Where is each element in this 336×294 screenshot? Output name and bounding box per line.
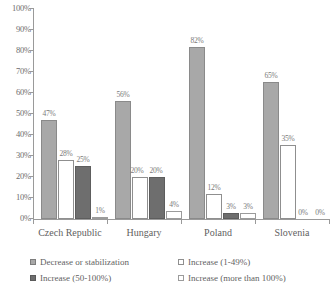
x-axis-category-czech-republic: Czech Republic [33,226,107,239]
y-axis-tick-label: 20% [1,172,31,181]
legend-item-decrease-or-stabilization[interactable]: Decrease or stabilization [30,256,129,268]
bar-value-label: 0% [310,209,330,217]
bar-value-label: 35% [275,135,301,143]
y-axis-tick [29,197,33,198]
y-axis-tick [29,71,33,72]
x-axis-category-labels: Czech Republic Hungary Poland Slovenia [33,226,330,242]
bar-value-label: 12% [201,184,227,192]
x-axis-category-hungary: Hungary [107,226,181,239]
bar-czech-increase-more-than-100[interactable] [92,217,108,219]
bar-value-label: 3% [235,203,261,211]
plot-area: 47% 28% 25% 1% 56% 20% 20% 4% 82% 12% [33,8,330,220]
bar-czech-decrease-or-stabilization[interactable] [41,120,57,219]
legend-swatch-icon [30,275,36,281]
y-axis-tick [29,50,33,51]
bar-value-label: 25% [70,156,96,164]
legend-item-increase-more-than-100[interactable]: Increase (more than 100%) [178,272,286,284]
y-axis-tick [29,29,33,30]
x-axis-tick [33,220,34,224]
y-axis-tick-label: 10% [1,193,31,202]
x-axis-category-slovenia: Slovenia [255,226,329,239]
y-axis-tick [29,92,33,93]
bar-group-slovenia: 65% 35% 0% 0% [263,8,329,219]
bar-slovenia-increase-1-49[interactable] [280,145,296,219]
bar-slovenia-decrease-or-stabilization[interactable] [263,82,279,219]
legend-swatch-icon [178,259,184,265]
y-axis-tick-label: 70% [1,67,31,76]
legend-label: Increase (1-49%) [188,256,250,268]
y-axis-tick-label: 100% [1,4,31,13]
legend-swatch-icon [178,275,184,281]
bar-hungary-increase-50-100[interactable] [149,177,165,219]
x-axis-tick [255,220,256,224]
x-axis-category-poland: Poland [181,226,255,239]
chart-legend: Decrease or stabilization Increase (50-1… [30,256,330,290]
y-axis-tick-label: 40% [1,130,31,139]
bar-value-label: 4% [161,201,187,209]
bar-value-label: 65% [258,72,284,80]
legend-label: Increase (50-100%) [40,272,111,284]
x-axis-tick [107,220,108,224]
y-axis-tick [29,218,33,219]
bar-value-label: 1% [87,207,113,215]
y-axis-tick-label: 50% [1,109,31,118]
y-axis-tick [29,155,33,156]
y-axis-tick-label: 0% [1,214,31,223]
bar-poland-increase-more-than-100[interactable] [240,213,256,219]
y-axis-tick-label: 60% [1,88,31,97]
y-axis-tick [29,113,33,114]
y-axis-tick-label: 80% [1,46,31,55]
legend-item-increase-50-100[interactable]: Increase (50-100%) [30,272,111,284]
bar-hungary-decrease-or-stabilization[interactable] [115,101,131,219]
bar-value-label: 47% [36,110,62,118]
legend-item-increase-1-49[interactable]: Increase (1-49%) [178,256,250,268]
bar-group-poland: 82% 12% 3% 3% [189,8,255,219]
y-axis-tick [29,176,33,177]
legend-label: Decrease or stabilization [40,256,129,268]
legend-label: Increase (more than 100%) [188,272,286,284]
x-axis-tick [329,220,330,224]
bar-czech-increase-1-49[interactable] [58,160,74,219]
y-axis-tick-label: 90% [1,25,31,34]
y-axis-tick-label: 30% [1,151,31,160]
bar-poland-increase-50-100[interactable] [223,213,239,219]
y-axis-line [33,8,34,220]
bar-group-czech-republic: 47% 28% 25% 1% [41,8,107,219]
bar-hungary-increase-1-49[interactable] [132,177,148,219]
bar-poland-decrease-or-stabilization[interactable] [189,47,205,219]
bar-chart: 100% 90% 80% 70% 60% 50% 40% 30% 20% 10%… [0,0,336,294]
bar-value-label: 20% [143,167,169,175]
x-axis-tick [181,220,182,224]
y-axis-tick [29,8,33,9]
y-axis-labels: 100% 90% 80% 70% 60% 50% 40% 30% 20% 10%… [0,8,31,220]
legend-swatch-icon [30,259,36,265]
y-axis-tick [29,134,33,135]
bar-value-label: 82% [184,37,210,45]
bar-group-hungary: 56% 20% 20% 4% [115,8,181,219]
bar-value-label: 56% [110,91,136,99]
bar-hungary-increase-more-than-100[interactable] [166,211,182,219]
